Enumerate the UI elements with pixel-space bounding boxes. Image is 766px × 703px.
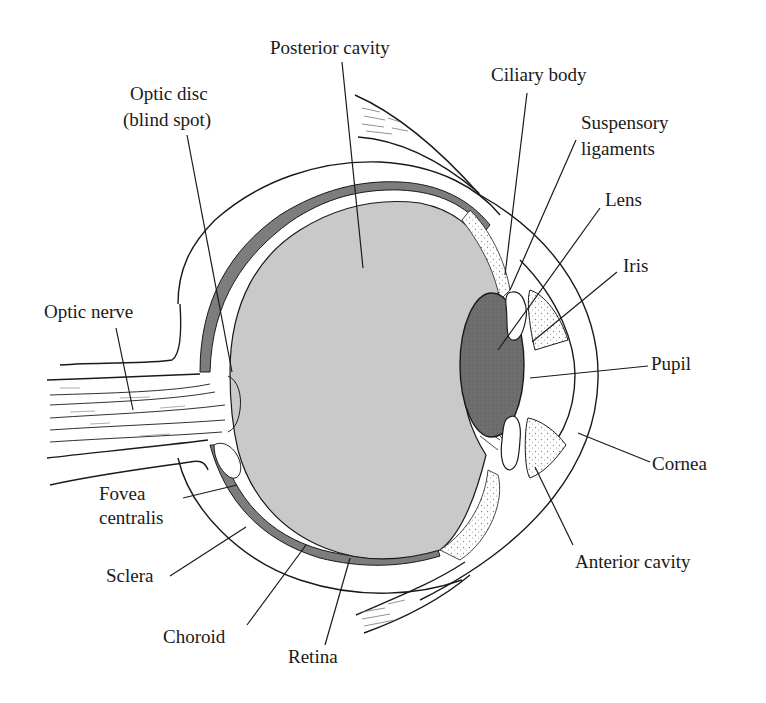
label-iris: Iris bbox=[623, 255, 648, 276]
eye-anatomy-diagram: Posterior cavity Ciliary body Optic disc… bbox=[0, 0, 766, 703]
anterior-cavity-bottom bbox=[525, 418, 566, 478]
label-pupil: Pupil bbox=[651, 353, 691, 374]
lower-eyelid-muscle bbox=[356, 562, 470, 633]
label-optic-nerve: Optic nerve bbox=[44, 301, 133, 322]
leader-sclera bbox=[170, 527, 246, 576]
fovea-blob bbox=[214, 443, 241, 478]
label-fovea-1: Fovea bbox=[99, 483, 146, 504]
label-optic-disc-1: Optic disc bbox=[130, 83, 208, 104]
leader-ciliary-body bbox=[505, 93, 527, 275]
leader-suspensory bbox=[510, 140, 576, 290]
optic-nerve bbox=[47, 304, 225, 485]
label-suspensory-2: ligaments bbox=[581, 138, 655, 159]
leader-retina bbox=[325, 558, 350, 645]
label-cornea: Cornea bbox=[652, 453, 707, 474]
upper-eyelid-muscle bbox=[355, 95, 480, 195]
label-posterior-cavity: Posterior cavity bbox=[270, 37, 390, 58]
iris-top bbox=[506, 292, 527, 340]
label-optic-disc-2: (blind spot) bbox=[123, 109, 211, 131]
iris-bottom bbox=[501, 416, 520, 470]
leader-cornea bbox=[578, 433, 650, 462]
leader-pupil bbox=[530, 366, 648, 378]
label-fovea-2: centralis bbox=[99, 507, 163, 528]
label-ciliary-body: Ciliary body bbox=[491, 64, 587, 85]
label-lens: Lens bbox=[605, 189, 642, 210]
label-sclera: Sclera bbox=[106, 565, 154, 586]
label-choroid: Choroid bbox=[163, 626, 226, 647]
label-suspensory-1: Suspensory bbox=[581, 112, 669, 133]
label-anterior-cavity: Anterior cavity bbox=[575, 551, 691, 572]
label-retina: Retina bbox=[288, 646, 338, 667]
leader-choroid bbox=[247, 545, 306, 625]
